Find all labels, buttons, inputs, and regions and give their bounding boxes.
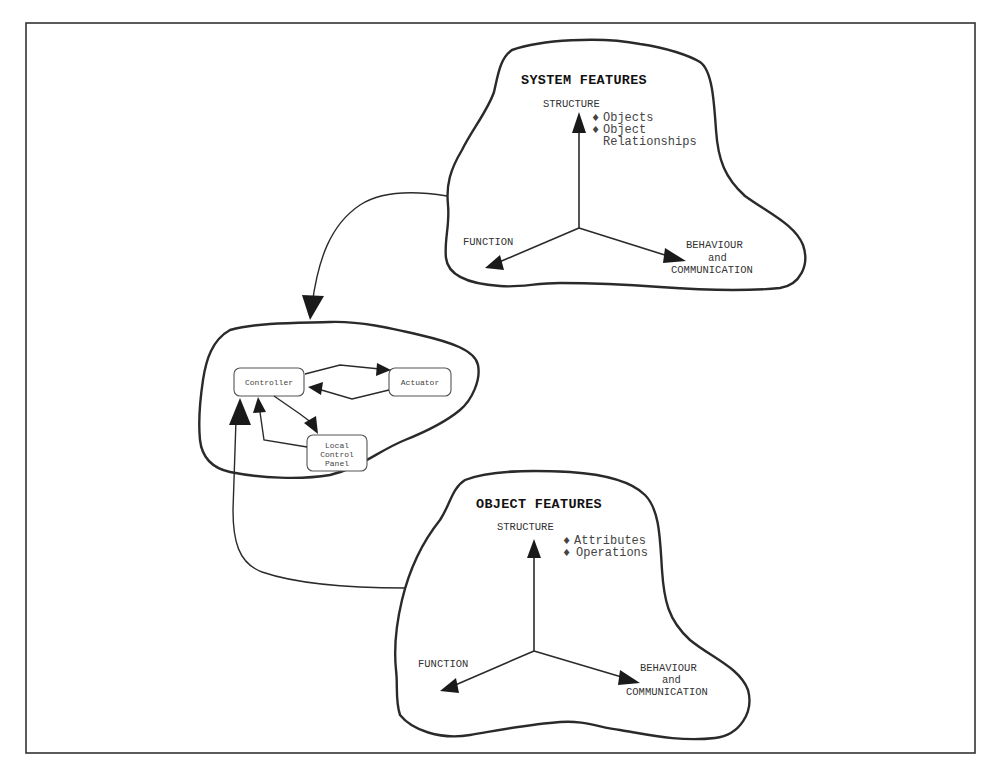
local-control-panel-node: Local Control Panel: [307, 435, 367, 471]
object-features-cloud: OBJECT FEATURES STRUCTURE ♦ Attributes ♦…: [395, 471, 749, 739]
actuator-node: Actuator: [389, 368, 451, 396]
connector-system-to-model: [302, 193, 447, 320]
system-features-cloud: SYSTEM FEATURES STRUCTURE ♦ Objects ♦ Ob…: [446, 40, 806, 290]
panel-label-line1: Local: [325, 441, 349, 450]
bullet-icon: ♦: [563, 546, 570, 560]
object-structure-item: Operations: [576, 546, 648, 560]
system-function-label: FUNCTION: [463, 236, 513, 248]
actuator-label: Actuator: [401, 378, 440, 387]
controller-label: Controller: [245, 378, 293, 387]
system-behaviour-label-comm: COMMUNICATION: [671, 264, 753, 276]
system-structure-item: Relationships: [603, 135, 697, 149]
diagram-canvas: SYSTEM FEATURES STRUCTURE ♦ Objects ♦ Ob…: [0, 0, 996, 768]
controller-node: Controller: [234, 368, 304, 396]
object-behaviour-label-and: and: [662, 674, 681, 686]
object-behaviour-label: BEHAVIOUR: [640, 662, 697, 674]
object-function-label: FUNCTION: [418, 658, 468, 670]
object-features-title: OBJECT FEATURES: [476, 497, 602, 512]
object-behaviour-label-comm: COMMUNICATION: [626, 686, 708, 698]
object-structure-label: STRUCTURE: [497, 521, 554, 533]
system-behaviour-label-and: and: [708, 252, 727, 264]
panel-label-line2: Control: [320, 450, 354, 459]
system-behaviour-label: BEHAVIOUR: [686, 239, 743, 251]
arrow-down-icon: [302, 295, 324, 320]
system-structure-label: STRUCTURE: [543, 98, 600, 110]
panel-label-line3: Panel: [325, 459, 349, 468]
system-model-cloud: Controller Actuator Local Control Panel: [199, 322, 478, 478]
bullet-icon: ♦: [592, 123, 599, 137]
system-features-title: SYSTEM FEATURES: [521, 73, 647, 88]
